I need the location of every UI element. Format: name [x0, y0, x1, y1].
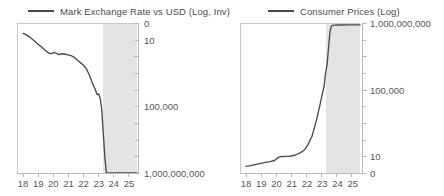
- y-tick-label: 10: [370, 151, 381, 162]
- chart-canvas: Mark Exchange Rate vs USD (Log, Inv) 181…: [0, 0, 444, 196]
- y-tick-mark: [363, 173, 366, 174]
- x-tick-mark: [306, 173, 307, 177]
- x-tick-label: 18: [241, 178, 252, 189]
- y-tick-mark: [134, 56, 138, 57]
- x-tick-labels-right: 1819202122232425: [240, 178, 362, 192]
- series-line-exchange-rate: [17, 23, 137, 173]
- y-tick-label: 10: [144, 34, 155, 45]
- series-line-consumer-prices: [240, 23, 360, 173]
- x-tick-label: 20: [271, 178, 282, 189]
- y-tick-mark: [135, 173, 138, 174]
- x-tick-label: 22: [78, 178, 89, 189]
- y-tick-mark: [134, 90, 138, 91]
- x-tick-mark: [113, 173, 114, 177]
- x-tick-label: 20: [48, 178, 59, 189]
- x-axis-right: [240, 173, 362, 174]
- chart-panel-consumer-prices: Consumer Prices (Log) 1819202122232425 1…: [222, 0, 444, 196]
- legend-exchange-rate: Mark Exchange Rate vs USD (Log, Inv): [28, 4, 230, 18]
- y-tick-label: 100,000: [144, 101, 178, 112]
- legend-label-consumer-prices: Consumer Prices (Log): [300, 6, 400, 17]
- y-tick-mark: [134, 123, 138, 124]
- x-axis-left: [17, 173, 138, 174]
- legend-consumer-prices: Consumer Prices (Log): [268, 4, 400, 18]
- y-tick-mark: [363, 106, 366, 107]
- x-tick-mark: [261, 173, 262, 177]
- x-tick-mark: [23, 173, 24, 177]
- y-tick-mark: [363, 156, 367, 157]
- x-tick-label: 25: [124, 178, 135, 189]
- y-tick-label: 1,000,000,000: [370, 18, 431, 29]
- y-axis-left: [138, 23, 139, 174]
- y-tick-mark: [135, 140, 138, 141]
- y-tick-mark: [363, 140, 366, 141]
- x-tick-mark: [321, 173, 322, 177]
- x-tick-label: 23: [317, 178, 328, 189]
- plot-area-exchange-rate: [17, 23, 137, 173]
- y-tick-label: 0: [144, 18, 149, 29]
- legend-line-swatch-icon: [268, 10, 294, 12]
- x-tick-label: 21: [287, 178, 298, 189]
- y-tick-mark: [363, 90, 367, 91]
- y-axis-right: [362, 23, 363, 174]
- y-tick-mark: [135, 73, 138, 74]
- y-tick-mark: [363, 40, 366, 41]
- legend-line-swatch-icon: [28, 10, 54, 12]
- x-tick-mark: [336, 173, 337, 177]
- x-tick-label: 19: [33, 178, 44, 189]
- x-tick-mark: [98, 173, 99, 177]
- chart-panel-exchange-rate: Mark Exchange Rate vs USD (Log, Inv) 181…: [0, 0, 222, 196]
- x-tick-label: 19: [256, 178, 267, 189]
- x-tick-label: 23: [93, 178, 104, 189]
- y-tick-label: 0: [370, 168, 375, 179]
- x-tick-label: 25: [348, 178, 359, 189]
- y-tick-mark: [135, 40, 138, 41]
- x-tick-mark: [83, 173, 84, 177]
- x-tick-labels-left: 1819202122232425: [17, 178, 138, 192]
- y-tick-mark: [363, 73, 366, 74]
- legend-label-exchange-rate: Mark Exchange Rate vs USD (Log, Inv): [60, 6, 230, 17]
- x-tick-label: 18: [18, 178, 29, 189]
- x-tick-label: 22: [302, 178, 313, 189]
- y-tick-mark: [134, 23, 138, 24]
- x-tick-mark: [38, 173, 39, 177]
- x-tick-label: 24: [109, 178, 120, 189]
- x-tick-mark: [53, 173, 54, 177]
- y-tick-mark: [363, 123, 367, 124]
- y-tick-label: 100,000: [370, 84, 404, 95]
- x-tick-mark: [276, 173, 277, 177]
- y-tick-mark: [363, 56, 367, 57]
- x-tick-mark: [246, 173, 247, 177]
- x-tick-label: 21: [63, 178, 74, 189]
- x-tick-mark: [291, 173, 292, 177]
- x-tick-mark: [128, 173, 129, 177]
- plot-area-consumer-prices: [240, 23, 360, 173]
- x-tick-label: 24: [332, 178, 343, 189]
- x-tick-mark: [351, 173, 352, 177]
- y-tick-mark: [363, 23, 367, 24]
- x-tick-mark: [68, 173, 69, 177]
- y-tick-mark: [135, 106, 138, 107]
- y-tick-mark: [134, 156, 138, 157]
- y-tick-label: 1,000,000,000: [144, 168, 205, 179]
